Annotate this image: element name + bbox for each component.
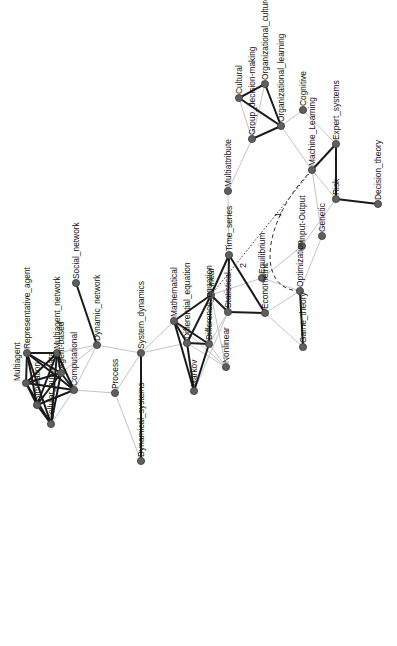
- node-label-optimization: Optimization: [295, 240, 305, 287]
- node-multiattribute[interactable]: [224, 187, 231, 194]
- node-label-time-series: Time_series: [224, 206, 234, 251]
- node-genetic[interactable]: [318, 232, 325, 239]
- node-organizational-culture[interactable]: [261, 80, 268, 87]
- node-dynamical-systems[interactable]: [137, 457, 144, 464]
- node-label-process: Process: [110, 359, 120, 389]
- node-label-machine-learning: Machine_Learning: [307, 97, 317, 166]
- node-label-expert-systems: Expert_systems: [331, 80, 341, 140]
- node-label-dynamic-network: Dynamic_network: [92, 274, 102, 341]
- node-time-series[interactable]: [225, 251, 232, 258]
- node-label-multiagent: Multiagent: [12, 342, 22, 381]
- node-label-social-network: Social_network: [71, 221, 81, 279]
- node-label-nonlinear: Nonlinear: [221, 327, 231, 363]
- node-label-agent-based: Agent-based: [56, 321, 66, 369]
- node-mathematical[interactable]: [170, 317, 177, 324]
- node-label-cellular-automata: Cellular_automata: [46, 352, 56, 420]
- node-label-organizational-culture: Organizational_culture: [260, 0, 270, 80]
- node-organizational-learning[interactable]: [277, 122, 284, 129]
- node-cognitive[interactable]: [299, 106, 306, 113]
- node-differential-equation[interactable]: [183, 339, 190, 346]
- node-game-theory[interactable]: [299, 343, 306, 350]
- node-social-network[interactable]: [72, 279, 79, 286]
- node-label-risk: Risk: [331, 178, 341, 195]
- node-cultural[interactable]: [235, 94, 242, 101]
- node-label-markov: Markov: [189, 359, 199, 387]
- node-machine-learning[interactable]: [308, 166, 315, 173]
- node-dynamic-network[interactable]: [93, 341, 100, 348]
- node-multiagent[interactable]: [22, 379, 29, 386]
- node-label-representative-agent: Representative_agent: [22, 266, 32, 349]
- node-label-simulation: Simulation: [32, 362, 42, 401]
- node-expert-systems[interactable]: [332, 140, 339, 147]
- weak-edges: [51, 84, 336, 461]
- edge-dynamic-network-system-dynamics: [97, 345, 141, 353]
- node-label-system-dynamics: System_dynamics: [136, 281, 146, 349]
- edge-weight-label: 2: [238, 263, 248, 268]
- node-label-linear: Linear: [206, 268, 216, 291]
- node-cellular-automata[interactable]: [47, 420, 54, 427]
- node-label-group-decision-making: Group_decision-making: [247, 46, 257, 135]
- node-label-mathematical: Mathematical: [169, 267, 179, 317]
- node-agent-based[interactable]: [57, 369, 64, 376]
- node-nonlinear[interactable]: [222, 363, 229, 370]
- edge-linear-equilibrium: [211, 278, 262, 295]
- node-computational[interactable]: [70, 386, 77, 393]
- node-group-decision-making[interactable]: [248, 135, 255, 142]
- node-label-input-output: Input-Output: [297, 195, 307, 242]
- node-process[interactable]: [111, 389, 118, 396]
- network-diagram: 21 Representative_agentMultiagent_networ…: [0, 0, 397, 646]
- node-system-dynamics[interactable]: [137, 349, 144, 356]
- node-label-genetic: Genetic: [317, 203, 327, 232]
- node-label-organizational-learning: Organizational_learning: [276, 33, 286, 122]
- node-risk[interactable]: [332, 195, 339, 202]
- node-label-computational: Computational: [69, 332, 79, 386]
- node-label-cultural: Cultural: [234, 65, 244, 94]
- node-statistical[interactable]: [224, 308, 231, 315]
- node-label-multiattribute: Multiattribute: [223, 139, 233, 187]
- node-label-decision-theory: Decision_theory: [373, 139, 383, 200]
- edge-statistical-econometric: [228, 312, 265, 313]
- node-label-statistical: Statistical: [223, 272, 233, 308]
- edge-weight-label: 1: [273, 212, 283, 217]
- node-representative-agent[interactable]: [23, 349, 30, 356]
- node-label-differential-equation: Differential_equation: [182, 262, 192, 339]
- node-simulation[interactable]: [33, 401, 40, 408]
- node-difference-equation[interactable]: [205, 340, 212, 347]
- node-label-game-theory: Game_theory: [298, 291, 308, 343]
- edge-econometric-optimization: [265, 291, 300, 313]
- node-decision-theory[interactable]: [374, 200, 381, 207]
- node-label-equilibrium: Equilibrium: [257, 233, 267, 274]
- edge-agent-based-dynamic-network: [61, 345, 97, 373]
- node-markov[interactable]: [190, 387, 197, 394]
- edge-risk-decision-theory: [336, 199, 378, 204]
- node-label-dynamical-systems: Dynamical_systems: [136, 383, 146, 457]
- edge-computational-process: [74, 390, 115, 393]
- node-econometric[interactable]: [261, 309, 268, 316]
